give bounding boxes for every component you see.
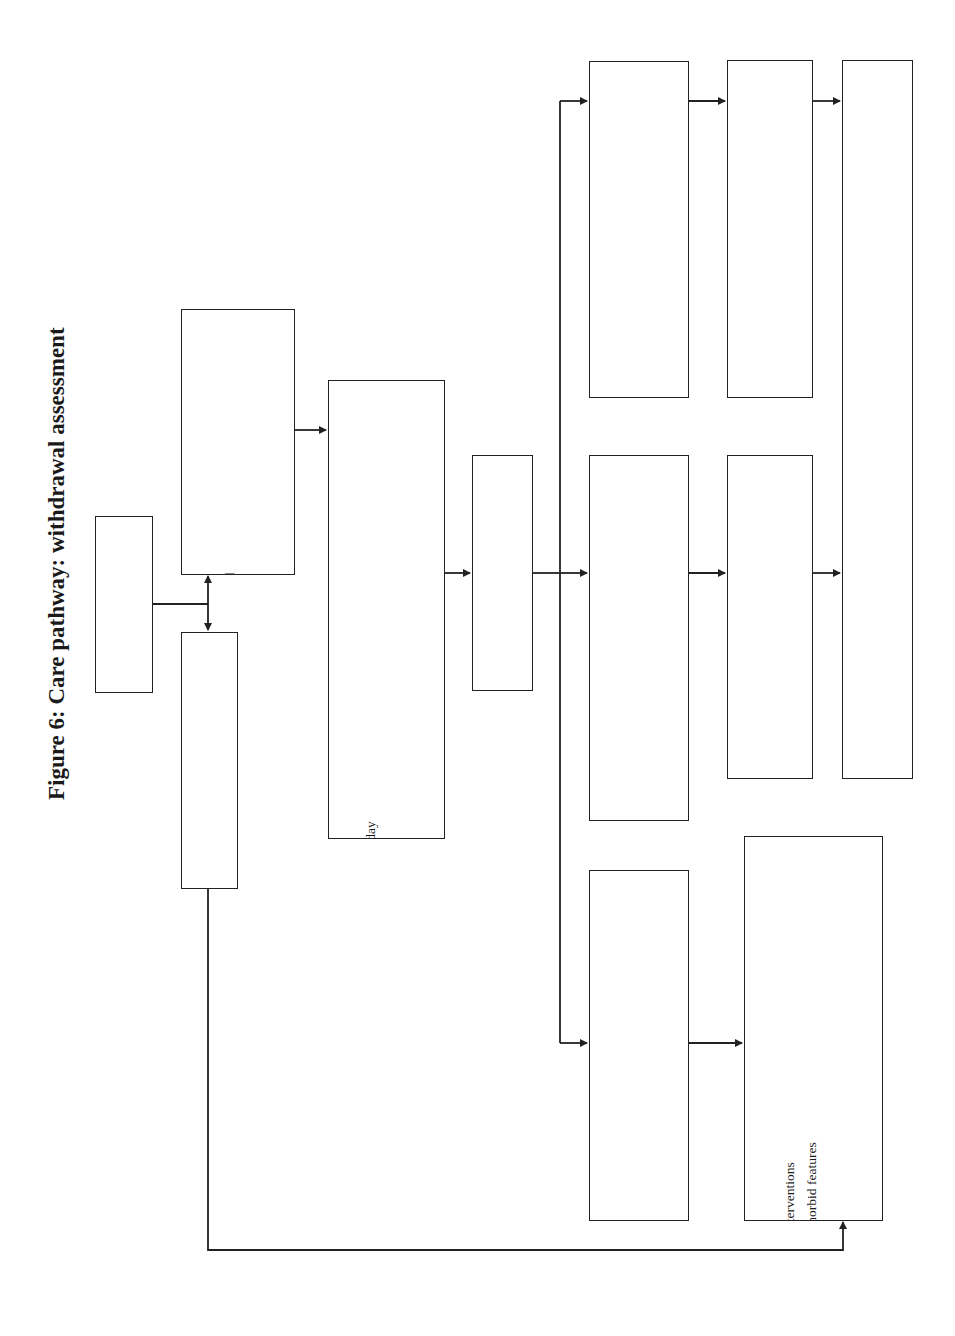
audit-high-line-2: Consider need for alcohol — [220, 572, 240, 575]
audit-low-box: AUDIT <20 — [181, 632, 238, 889]
tier23-bullet-1: Psychological and pharmacological interv… — [779, 1162, 801, 1221]
sadq-low-box: •SADQ <15 •Typical drinks per day <15 — [589, 870, 689, 1221]
sadq-high-box: •SADQ >30 •Typical drinks per day >30 un… — [589, 61, 689, 398]
audit-box: AUDIT — [95, 516, 153, 693]
audit-high-line-1: AUDIT >20 — [200, 572, 220, 575]
assess-box: Assess the presence of one or more of th… — [328, 380, 445, 839]
audit-high-box: AUDIT >20 Consider need for alcohol with… — [181, 309, 295, 575]
outpatient-box: Outpatient (Tier 3 interventions): •Assi… — [727, 455, 813, 779]
outcome-box: Outcome of assessment — [472, 455, 533, 691]
comprehensive-box: Comprehensive assessment (Tier3/4 interv… — [842, 60, 913, 779]
inpatient-box: Inpatient (Tier 4 interventions): •Assis… — [727, 60, 813, 398]
tier23-heading: Consider Tier 2 or 3 interventions — [757, 1100, 779, 1221]
assess-bullet-1: Dependence severity: SADQ/ units per typ… — [361, 821, 381, 839]
tier23-box: Consider Tier 2 or 3 interventions •Psyc… — [744, 836, 883, 1221]
sadq-mid-box: •SADQ 15-30 •Typical drinks per day <30 … — [589, 455, 689, 821]
audit-high-line-3: withdrawal — [240, 572, 260, 575]
tier23-bullet-2: Comprehensive assessment where comorbid … — [801, 1100, 845, 1221]
assess-heading: Assess the presence of one or more of th… — [341, 746, 361, 839]
